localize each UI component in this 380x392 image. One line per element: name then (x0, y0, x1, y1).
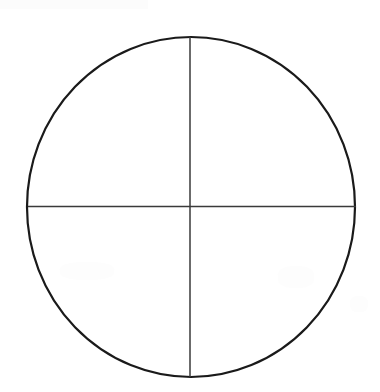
circle-quadrant-figure: Circle divided into four quadrants (0, 0, 380, 392)
drawing-canvas: Circle divided into four quadrants (0, 0, 380, 392)
